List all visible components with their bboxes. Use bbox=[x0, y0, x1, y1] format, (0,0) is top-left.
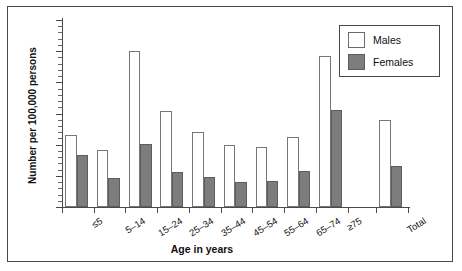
chart-legend: Males Females bbox=[339, 25, 440, 77]
female-swatch-icon bbox=[348, 54, 365, 70]
x-axis-tick-label: ≤5 bbox=[90, 215, 105, 230]
x-axis-tick bbox=[252, 207, 253, 213]
x-axis-tick bbox=[157, 207, 158, 213]
x-axis-tick-label: 65–74 bbox=[314, 215, 342, 238]
x-axis-tick bbox=[348, 207, 349, 213]
legend-item-males: Males bbox=[348, 32, 401, 48]
legend-item-females: Females bbox=[348, 54, 413, 70]
x-axis-tick-label: Total bbox=[405, 215, 428, 235]
x-axis-tick-label: 5–14 bbox=[123, 215, 147, 236]
x-axis-tick-label: 25–34 bbox=[187, 215, 215, 238]
x-axis-tick-label: ≥75 bbox=[344, 215, 363, 233]
male-swatch-icon bbox=[348, 32, 365, 48]
x-axis-tick-label: 55–64 bbox=[282, 215, 310, 238]
legend-label-males: Males bbox=[373, 34, 401, 46]
chart-page: Number per 100,000 persons 0501001502002… bbox=[0, 0, 462, 271]
x-axis-tick bbox=[408, 207, 409, 213]
x-axis-tick bbox=[316, 207, 317, 213]
x-axis-title: Age in years bbox=[62, 243, 342, 255]
x-axis-tick bbox=[376, 207, 377, 213]
x-axis-tick bbox=[94, 207, 95, 213]
x-axis-tick bbox=[221, 207, 222, 213]
x-axis-tick-label: 45–54 bbox=[251, 215, 279, 238]
x-axis-tick bbox=[189, 207, 190, 213]
x-axis-tick bbox=[62, 207, 63, 213]
legend-label-females: Females bbox=[373, 56, 413, 68]
x-axis-tick bbox=[284, 207, 285, 213]
x-axis-tick-label: 15–24 bbox=[156, 215, 184, 238]
x-axis-tick-label: 35–44 bbox=[219, 215, 247, 238]
x-axis-tick bbox=[125, 207, 126, 213]
